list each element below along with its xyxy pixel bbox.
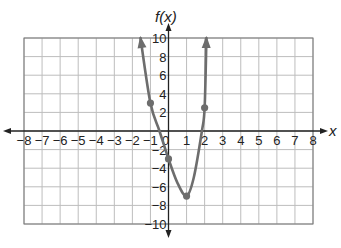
data-point [147, 100, 154, 107]
x-tick-label: −2 [125, 133, 140, 148]
x-axis-label: x [328, 122, 337, 139]
x-tick-label: −4 [89, 133, 104, 148]
x-tick-label: 8 [309, 133, 316, 148]
x-tick-label: −8 [17, 133, 32, 148]
x-tick-label: 4 [237, 133, 244, 148]
x-tick-label: −7 [35, 133, 50, 148]
x-tick-label: −3 [107, 133, 122, 148]
data-point [165, 155, 172, 162]
data-point [183, 193, 190, 200]
x-tick-label: −5 [71, 133, 86, 148]
y-tick-label: 6 [159, 68, 166, 83]
y-tick-label: 4 [159, 87, 166, 102]
y-tick-label: 8 [159, 50, 166, 65]
y-tick-label: −4 [152, 161, 167, 176]
y-tick-label: 2 [159, 105, 166, 120]
data-point [201, 104, 208, 111]
y-tick-label: −10 [144, 217, 166, 232]
x-tick-label: −6 [53, 133, 68, 148]
y-axis-label: f(x) [155, 8, 177, 25]
x-tick-label: 1 [183, 133, 190, 148]
x-tick-label: 3 [219, 133, 226, 148]
function-curve [138, 36, 211, 196]
y-tick-label: −6 [152, 180, 167, 195]
x-tick-label: 5 [255, 133, 262, 148]
x-tick-label: 6 [273, 133, 280, 148]
y-tick-label: 10 [152, 31, 166, 46]
y-tick-label: −8 [152, 198, 167, 213]
function-graph: −8−7−6−5−4−3−2−1012345678108642−2−4−6−8−… [0, 0, 341, 248]
x-tick-label: 7 [291, 133, 298, 148]
